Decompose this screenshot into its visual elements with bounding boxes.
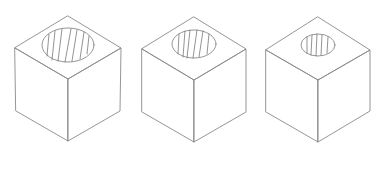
cube-1-hatch-line — [87, 36, 89, 54]
cube-3-right-face — [318, 50, 370, 142]
cube-3-hole — [301, 34, 335, 56]
cube-1-hatch-line — [58, 29, 62, 61]
cube-3-left-face — [266, 50, 318, 142]
cube-1-hatch-line — [72, 30, 77, 61]
cube-1-hole-hatching — [47, 29, 89, 62]
cube-1 — [15, 16, 121, 141]
cube-1-right-face — [68, 48, 121, 141]
cube-3-hatch-line — [327, 37, 328, 53]
cube-2-hatch-line — [199, 31, 203, 57]
cube-2-right-face — [194, 49, 246, 142]
cube-2 — [142, 17, 246, 142]
cube-3-top-face — [266, 17, 370, 80]
cube-2-hatch-line — [207, 34, 209, 54]
cube-1-left-face — [15, 48, 68, 141]
cube-2-hatch-line — [187, 30, 190, 58]
cube-2-hole-hatching — [178, 30, 209, 58]
cube-2-hatch-line — [193, 30, 197, 58]
cube-1-hatch-line — [47, 34, 49, 56]
cube-3-hatch-line — [316, 34, 317, 56]
cube-3-hatch-line — [321, 35, 322, 55]
cube-3-hole-hatching — [307, 34, 328, 56]
cube-3-hatch-line — [311, 35, 312, 55]
cube-2-hatch-line — [183, 31, 185, 57]
isometric-cubes-diagram — [0, 0, 385, 169]
cube-2-hatch-line — [178, 34, 179, 54]
cube-3 — [266, 17, 370, 142]
cube-1-hatch-line — [65, 29, 71, 62]
cube-1-hatch-line — [80, 32, 84, 59]
cube-1-hatch-line — [52, 31, 55, 60]
cube-2-left-face — [142, 49, 194, 142]
